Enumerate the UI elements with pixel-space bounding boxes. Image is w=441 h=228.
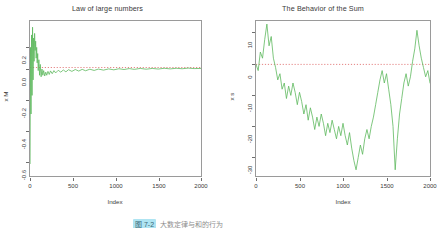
x-tick-label-right-1: 500	[285, 183, 315, 189]
x-axis-title-left: Index	[65, 198, 165, 205]
figure-caption-strip: 图 7-2 大数定律与和的行为	[0, 219, 431, 228]
series-running-mean	[30, 27, 201, 163]
x-tick-left-3	[159, 178, 160, 181]
y-tick-label-left-1: 0.0	[21, 69, 27, 95]
x-axis-title-right: Index	[293, 198, 393, 205]
x-tick-right-1	[300, 178, 301, 181]
y-tick-label-right-1: 0	[247, 64, 253, 90]
x-tick-right-3	[387, 178, 388, 181]
x-tick-left-1	[73, 178, 74, 181]
x-tick-label-right-4: 2000	[415, 183, 441, 189]
x-tick-left-4	[201, 178, 202, 181]
plot-area-left	[29, 20, 202, 177]
plot-panel-law-of-large-numbers: Law of large numbers 0.2 0.0 -0.2 -0.4 -…	[0, 0, 215, 210]
plot-canvas-right	[256, 21, 430, 176]
series-cumulative-sum	[256, 24, 430, 170]
y-axis-title-left: x M	[2, 82, 9, 112]
x-tick-label-left-1: 500	[58, 183, 88, 189]
x-tick-label-right-2: 1000	[328, 183, 358, 189]
x-tick-label-left-2: 1000	[101, 183, 131, 189]
x-tick-left-0	[30, 178, 31, 181]
y-tick-label-right-3: -20	[247, 126, 253, 152]
x-tick-label-left-4: 2000	[186, 183, 216, 189]
y-tick-label-right-4: -30	[247, 157, 253, 183]
x-tick-label-right-0: 0	[241, 183, 271, 189]
plot-canvas-left	[30, 21, 201, 176]
figure-caption-number: 图 7-2	[133, 219, 156, 228]
plot-title-left: Law of large numbers	[0, 4, 215, 13]
plot-title-right: The Behavior of the Sum	[215, 4, 431, 13]
plot-panel-behavior-of-the-sum: The Behavior of the Sum 10 0 -10 -20 -30…	[215, 0, 431, 210]
x-tick-right-2	[343, 178, 344, 181]
x-tick-label-left-0: 0	[15, 183, 45, 189]
x-tick-label-right-3: 1500	[372, 183, 402, 189]
y-axis-title-right: x s	[228, 82, 235, 112]
x-tick-left-2	[116, 178, 117, 181]
plot-area-right	[255, 20, 431, 177]
y-tick-label-right-2: -10	[247, 95, 253, 121]
figure-caption: 图 7-2 大数定律与和的行为	[133, 219, 223, 228]
y-tick-label-right-0: 10	[247, 32, 253, 58]
figure-caption-text: 大数定律与和的行为	[160, 219, 223, 228]
x-tick-right-4	[430, 178, 431, 181]
y-tick-label-left-2: -0.2	[21, 100, 27, 126]
x-tick-right-0	[256, 178, 257, 181]
y-tick-label-left-3: -0.4	[21, 131, 27, 157]
x-tick-label-left-3: 1500	[144, 183, 174, 189]
